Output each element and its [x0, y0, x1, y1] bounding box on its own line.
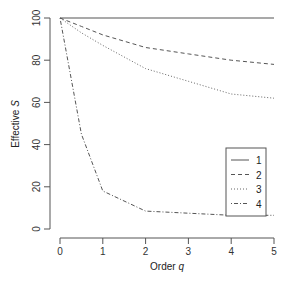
x-tick-label: 4 [228, 246, 234, 257]
y-tick-label: 40 [31, 139, 42, 151]
x-tick-label: 0 [57, 246, 63, 257]
series-2-line [60, 18, 274, 64]
y-tick-label: 20 [31, 181, 42, 193]
y-axis: 020406080100 [31, 9, 50, 232]
x-tick-label: 3 [186, 246, 192, 257]
x-tick-label: 5 [271, 246, 277, 257]
legend-label-4: 4 [256, 199, 262, 210]
legend-label-2: 2 [256, 170, 262, 181]
x-tick-label: 1 [100, 246, 106, 257]
legend: 1234 [226, 148, 266, 216]
x-tick-label: 2 [143, 246, 149, 257]
y-tick-label: 80 [31, 54, 42, 66]
y-tick-label: 100 [31, 9, 42, 26]
x-axis: 012345 [57, 238, 277, 257]
legend-label-1: 1 [256, 155, 262, 166]
legend-label-3: 3 [256, 184, 262, 195]
y-tick-label: 0 [31, 226, 42, 232]
x-axis-label: Order q [150, 261, 184, 272]
series-3-line [60, 18, 274, 98]
line-chart: 020406080100 012345 1234 Order q Effecti… [0, 0, 285, 282]
y-axis-label: Effective S [10, 100, 21, 148]
y-tick-label: 60 [31, 96, 42, 108]
